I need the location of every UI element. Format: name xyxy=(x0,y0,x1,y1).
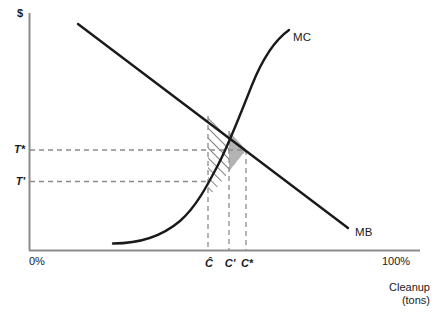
mc-curve xyxy=(113,30,289,244)
mc-curve-label: MC xyxy=(293,31,311,44)
y-tick-label-t-prime: T' xyxy=(1,175,25,188)
chart-figure: $ MC MB T* T' Ĉ C' C* 0% 100% Cleanup (t… xyxy=(0,0,438,314)
y-tick-label-t-star: T* xyxy=(1,143,25,156)
y-axis-title: $ xyxy=(17,7,23,20)
x-axis-title-line1: Cleanup xyxy=(389,281,430,294)
x-axis-end-label: 100% xyxy=(382,255,410,268)
x-tick-label-c-star: C* xyxy=(234,257,260,270)
mb-curve xyxy=(78,24,348,228)
x-axis-start-label: 0% xyxy=(29,255,45,268)
mb-curve-label: MB xyxy=(355,226,373,239)
x-axis-title-line2: (tons) xyxy=(402,294,430,307)
